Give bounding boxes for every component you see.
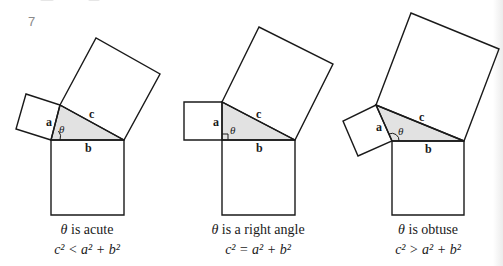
label-a: a — [213, 115, 219, 129]
caption-text: is acute — [68, 222, 114, 237]
square-a-acute — [16, 94, 60, 140]
caption-right: θ is a right angle c² = a² + b² — [198, 222, 318, 258]
label-b: b — [256, 141, 263, 155]
caption-text: is a right angle — [218, 222, 304, 237]
label-b: b — [425, 142, 432, 156]
label-c: c — [89, 107, 95, 121]
figure-acute — [16, 38, 160, 215]
caption-text: is obtuse — [405, 222, 458, 237]
caption-theta: θ — [398, 222, 405, 237]
relation-equation: c² < a² + b² — [37, 242, 137, 258]
caption-theta: θ — [61, 222, 68, 237]
label-a: a — [376, 120, 382, 134]
label-theta: θ — [59, 123, 65, 135]
figure-right — [184, 27, 333, 215]
caption-acute: θ is acute c² < a² + b² — [37, 222, 137, 258]
label-c: c — [419, 110, 425, 124]
label-theta: θ — [230, 124, 236, 136]
label-c: c — [256, 107, 262, 121]
label-a: a — [46, 115, 52, 129]
label-theta: θ — [398, 125, 404, 137]
relation-equation: c² = a² + b² — [198, 242, 318, 258]
relation-equation: c² > a² + b² — [378, 242, 478, 258]
caption-obtuse: θ is obtuse c² > a² + b² — [378, 222, 478, 258]
label-b: b — [85, 141, 92, 155]
